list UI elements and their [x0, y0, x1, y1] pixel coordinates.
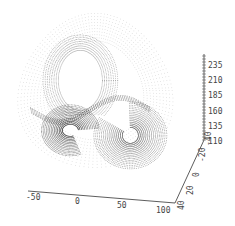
- y-tick: 0: [192, 172, 201, 177]
- z-tick: 210: [208, 76, 223, 85]
- 3d-scatter-plot: -50 0 50 100 40 20 0 -20 -40 110 135 160…: [0, 0, 235, 226]
- point-cloud: [17, 13, 173, 169]
- y-tick: -20: [198, 147, 207, 162]
- x-tick: 0: [75, 197, 80, 206]
- x-tick: 50: [117, 201, 127, 210]
- y-tick: 20: [186, 185, 195, 195]
- z-tick: 110: [208, 137, 223, 146]
- x-tick: -50: [26, 193, 41, 202]
- z-tick: 235: [208, 61, 223, 70]
- z-tick: 160: [208, 107, 223, 116]
- x-axis-line: [28, 191, 175, 203]
- y-tick: 40: [177, 200, 186, 210]
- z-tick: 185: [208, 91, 223, 100]
- x-tick: 100: [156, 206, 171, 215]
- z-tick: 135: [208, 122, 223, 131]
